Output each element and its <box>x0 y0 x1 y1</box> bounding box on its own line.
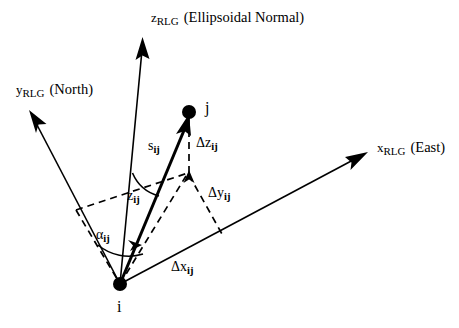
y-axis-subscript: RLG <box>23 87 45 99</box>
delta-x-symbol: Δx <box>171 259 187 274</box>
diagram-canvas <box>0 0 459 328</box>
z-axis-subscript: RLG <box>157 15 179 27</box>
point-i-label: i <box>117 299 121 315</box>
z-axis-label: zRLG(Ellipsoidal Normal) <box>151 10 304 25</box>
delta-x-subscript: ij <box>187 265 193 276</box>
y-axis-symbol: y <box>16 82 23 97</box>
point-j-label: j <box>205 100 209 116</box>
delta-z-subscript: ij <box>211 141 217 152</box>
point-j-dot <box>182 105 196 119</box>
x-axis-arrow <box>120 152 368 284</box>
delta-y-subscript: ij <box>224 191 230 202</box>
z-axis-annotation: (Ellipsoidal Normal) <box>184 9 304 25</box>
delta-y-label: Δyij <box>208 186 230 200</box>
delta-y-symbol: Δy <box>208 185 224 200</box>
baseline-vector-label: sij <box>148 139 160 153</box>
point-i-dot <box>113 277 127 291</box>
y-axis-annotation: (North) <box>50 81 94 97</box>
y-axis-label: yRLG(North) <box>16 82 93 97</box>
x-axis-subscript: RLG <box>384 145 406 157</box>
x-axis-annotation: (East) <box>411 139 446 155</box>
rlg-coordinate-diagram: zRLG(Ellipsoidal Normal) yRLG(North) xRL… <box>0 0 459 328</box>
zenith-angle-label: zij <box>127 189 140 203</box>
z-axis-symbol: z <box>151 10 157 25</box>
zenith-angle-subscript: ij <box>133 194 139 205</box>
delta-z-label: Δzij <box>196 136 218 150</box>
y-axis-arrow <box>29 110 120 284</box>
delta-z-symbol: Δz <box>196 135 211 150</box>
x-axis-symbol: x <box>377 140 384 155</box>
azimuth-angle-subscript: ij <box>103 233 109 244</box>
delta-x-label: Δxij <box>171 260 193 274</box>
azimuth-angle-label: αij <box>96 228 110 242</box>
x-axis-label: xRLG(East) <box>377 140 445 155</box>
baseline-subscript: ij <box>153 144 159 155</box>
